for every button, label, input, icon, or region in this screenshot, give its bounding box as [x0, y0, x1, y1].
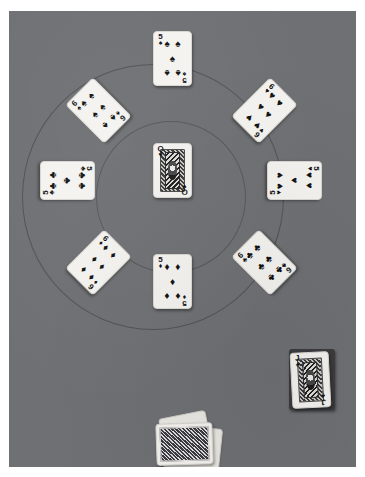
- pip: ♣: [262, 253, 274, 265]
- table-felt: 5 ♠ 5 ♠ ♠ ♠ ♠ ♠ ♠ 6: [9, 11, 356, 467]
- pip: ♠: [100, 120, 111, 131]
- pip: ♣: [77, 172, 87, 179]
- pip: ♦: [100, 243, 111, 254]
- pip: ♣: [63, 177, 73, 184]
- deck-pile-group[interactable]: J ♠ J ♠: [286, 347, 338, 413]
- card-face: 5 ♥ 5 ♥ ♥ ♥ ♥ ♥ ♥: [268, 162, 321, 199]
- card-pips: ♣ ♣ ♣ ♣ ♣: [47, 171, 88, 190]
- card-five-of-clubs[interactable]: 5 ♣ 5 ♣ ♣ ♣ ♣ ♣ ♣: [40, 161, 95, 200]
- pip: ♣: [266, 271, 278, 283]
- pip: ♥: [304, 183, 314, 189]
- card-pips: ♥ ♥ ♥ ♥ ♥: [274, 171, 315, 190]
- pip: ♦: [165, 262, 170, 272]
- pip: ♥: [255, 101, 266, 112]
- pip: ♠: [165, 39, 170, 49]
- pip: ♣: [252, 242, 264, 254]
- pip: ♣: [48, 172, 58, 179]
- card-jack-of-spades[interactable]: J ♠ J ♠: [290, 351, 332, 409]
- card-face-down[interactable]: [155, 422, 213, 466]
- pip: ♦: [79, 264, 90, 275]
- pip: ♦: [108, 250, 119, 261]
- card-back-pattern: [159, 426, 209, 462]
- pip: ♠: [97, 101, 108, 112]
- face-down-pile-group[interactable]: [150, 412, 228, 467]
- card-face: 5 ♠ 5 ♠ ♠ ♠ ♠ ♠ ♠: [154, 32, 191, 85]
- pip: ♣: [48, 183, 58, 190]
- card-five-of-spades[interactable]: 5 ♠ 5 ♠ ♠ ♠ ♠ ♠ ♠: [153, 31, 192, 86]
- card-index-top-left: J ♠: [293, 355, 303, 367]
- card-face: 5 ♣ 5 ♣ ♣ ♣ ♣ ♣ ♣: [41, 162, 94, 199]
- pip: ♦: [97, 261, 108, 272]
- pip: ♣: [255, 260, 267, 272]
- pip: ♦: [175, 291, 180, 301]
- pip: ♦: [89, 253, 100, 264]
- card-index-top-left: Q ♥: [156, 146, 165, 157]
- pip: ♠: [175, 68, 180, 78]
- pip: ♦: [165, 291, 170, 301]
- card-queen-of-hearts[interactable]: Q ♥ Q ♥: [153, 143, 192, 198]
- pip: ♠: [165, 68, 170, 78]
- card-pips: ♦ ♦ ♦ ♦ ♦: [163, 261, 182, 302]
- pip: ♣: [77, 183, 87, 190]
- card-face: Q ♥ Q ♥: [154, 144, 191, 197]
- card-index-bottom-right: J ♠: [319, 393, 329, 405]
- pip: ♥: [275, 172, 285, 178]
- pip: ♥: [290, 178, 300, 184]
- card-face: J ♠ J ♠: [291, 352, 331, 408]
- pip: ♠: [89, 109, 100, 120]
- pip: ♠: [175, 39, 180, 49]
- card-face: 5 ♦ 5 ♦ ♦ ♦ ♦ ♦ ♦: [154, 255, 191, 308]
- pip: ♠: [86, 91, 97, 102]
- card-pips: ♠ ♠ ♠ ♠ ♠: [163, 38, 182, 79]
- pip: ♥: [244, 112, 255, 123]
- scene-title: Playing cards arranged on a grey felt ta…: [0, 0, 1, 1]
- pip: ♥: [304, 172, 314, 178]
- card-table-scene: 5 ♠ 5 ♠ ♠ ♠ ♠ ♠ ♠ 6: [0, 0, 365, 477]
- card-index-bottom-right: Q ♥: [180, 184, 189, 195]
- pip: ♥: [275, 183, 285, 189]
- card-pips: ♥ ♥ ♥ ♥ ♥ ♥: [243, 89, 285, 131]
- pip: ♦: [175, 262, 180, 272]
- card-five-of-diamonds[interactable]: 5 ♦ 5 ♦ ♦ ♦ ♦ ♦ ♦: [153, 254, 192, 309]
- pip: ♥: [273, 98, 284, 109]
- pip: ♦: [170, 277, 175, 287]
- pip: ♥: [263, 109, 274, 120]
- card-five-of-hearts[interactable]: 5 ♥ 5 ♥ ♥ ♥ ♥ ♥ ♥: [267, 161, 322, 200]
- pip: ♠: [170, 54, 175, 64]
